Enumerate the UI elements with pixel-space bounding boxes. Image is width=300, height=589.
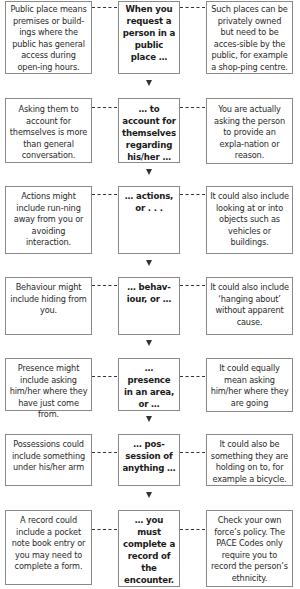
- note-left-actions: Actions might include run-ning away from…: [5, 186, 92, 254]
- dashed-connector-left: [92, 7, 117, 8]
- dashed-connector-right: [180, 529, 205, 530]
- step-possession-of-anything: … pos-session of anything …: [118, 434, 180, 486]
- step-presence-in-area: … presence in an area, or …: [118, 358, 180, 411]
- note-right-looking-into-objects: It could also include looking at or into…: [206, 186, 293, 254]
- step-complete-record: … you must complete a record of the enco…: [118, 510, 180, 587]
- step-account-for-themselves: … to account for themselves regarding hi…: [118, 98, 180, 163]
- dashed-connector-left: [92, 376, 117, 377]
- note-left-asking-to-account: Asking them to account for themselves is…: [5, 98, 92, 163]
- step-request-in-public-place: When you request a person in a public pl…: [118, 1, 180, 74]
- note-right-force-policy: Check your own force’s policy. The PACE …: [206, 510, 293, 587]
- dashed-connector-right: [180, 7, 205, 8]
- dashed-connector-right: [180, 107, 205, 108]
- dashed-connector-right: [180, 376, 205, 377]
- note-right-private-places: Such places can be privately owned but n…: [206, 1, 293, 74]
- note-left-public-place: Public place means premises or build-ing…: [5, 1, 92, 74]
- dashed-connector-left: [92, 285, 117, 286]
- dashed-connector-left: [92, 452, 117, 453]
- dashed-connector-right: [180, 452, 205, 453]
- step-behaviour: … behav-iour, or …: [118, 277, 180, 335]
- note-left-presence: Presence might include asking him/her wh…: [5, 358, 92, 411]
- dashed-connector-left: [92, 529, 117, 530]
- note-right-holding-on-to: It could also be something they are hold…: [206, 434, 293, 486]
- dashed-connector-right: [180, 194, 205, 195]
- down-arrow-icon: [146, 260, 152, 266]
- note-left-behaviour: Behaviour might include hiding from you.: [5, 277, 92, 335]
- step-actions: … actions, or . . .: [118, 186, 180, 254]
- note-left-record: A record could include a pocket note boo…: [5, 510, 92, 585]
- note-right-hanging-about: It could also include ‘hanging about’ wi…: [206, 277, 293, 335]
- note-right-where-going: It could equally mean asking him/her whe…: [206, 358, 293, 412]
- down-arrow-icon: [146, 340, 152, 346]
- down-arrow-icon: [146, 80, 152, 86]
- down-arrow-icon: [146, 169, 152, 175]
- note-right-explanation: You are actually asking the person to pr…: [206, 98, 293, 164]
- dashed-connector-right: [180, 285, 205, 286]
- note-left-possessions: Possessions could include something unde…: [5, 434, 92, 486]
- dashed-connector-left: [92, 107, 117, 108]
- dashed-connector-left: [92, 194, 117, 195]
- down-arrow-icon: [146, 416, 152, 422]
- down-arrow-icon: [146, 492, 152, 498]
